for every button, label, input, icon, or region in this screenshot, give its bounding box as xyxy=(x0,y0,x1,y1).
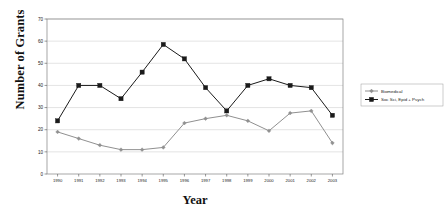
plot-frame xyxy=(47,19,343,174)
x-axis-ticks: 1990199119921993199419951996199719981999… xyxy=(53,174,338,183)
chart-figure: Number of Grants Year 010203040506070 19… xyxy=(0,0,447,214)
x-tick-label: 1997 xyxy=(201,178,211,183)
x-tick-label: 1990 xyxy=(53,178,63,183)
line-chart-plot: 010203040506070 199019911992199319941995… xyxy=(0,0,447,214)
series-soc-sci-epid-psych xyxy=(55,42,334,123)
legend-label: Soc Sci, Epid + Psych xyxy=(381,97,425,102)
plot-area-border xyxy=(47,19,343,174)
x-tick-label: 1999 xyxy=(243,178,253,183)
x-tick-label: 1995 xyxy=(159,178,169,183)
data-point xyxy=(55,119,59,123)
y-tick-label: 70 xyxy=(38,17,44,22)
data-point xyxy=(246,83,250,87)
y-tick-label: 30 xyxy=(38,105,44,110)
chart-legend: BiomedicalSoc Sci, Epid + Psych xyxy=(361,84,443,106)
legend-marker xyxy=(369,97,373,101)
data-point xyxy=(56,130,60,134)
data-point xyxy=(77,83,81,87)
data-point xyxy=(119,97,123,101)
data-point xyxy=(140,148,144,152)
data-point xyxy=(182,57,186,61)
x-tick-label: 1991 xyxy=(74,178,84,183)
data-point xyxy=(140,70,144,74)
data-point xyxy=(98,83,102,87)
data-point xyxy=(288,83,292,87)
y-tick-label: 50 xyxy=(38,61,44,66)
x-tick-label: 1992 xyxy=(95,178,105,183)
y-axis-title: Number of Grants xyxy=(13,0,28,135)
data-point xyxy=(119,148,123,152)
series-line xyxy=(58,44,333,120)
y-tick-label: 10 xyxy=(38,150,44,155)
data-point xyxy=(204,117,208,121)
data-point xyxy=(309,86,313,90)
x-tick-label: 2000 xyxy=(264,178,274,183)
data-point xyxy=(98,143,102,147)
series-line xyxy=(58,111,333,150)
data-point xyxy=(225,113,229,117)
y-tick-label: 60 xyxy=(38,39,44,44)
x-tick-label: 2003 xyxy=(328,178,338,183)
x-tick-label: 1994 xyxy=(137,178,147,183)
data-point xyxy=(330,113,334,117)
y-tick-label: 0 xyxy=(40,172,43,177)
data-point xyxy=(225,109,229,113)
x-tick-label: 2002 xyxy=(307,178,317,183)
x-axis-title: Year xyxy=(47,193,343,208)
data-point xyxy=(77,137,81,141)
data-point xyxy=(246,119,250,123)
legend-label: Biomedical xyxy=(381,89,402,94)
y-tick-label: 40 xyxy=(38,83,44,88)
x-tick-label: 2001 xyxy=(285,178,295,183)
legend-box xyxy=(361,84,443,106)
y-axis-ticks: 010203040506070 xyxy=(38,17,47,177)
x-tick-label: 1996 xyxy=(180,178,190,183)
data-point xyxy=(203,86,207,90)
x-tick-label: 1998 xyxy=(222,178,232,183)
data-point xyxy=(267,77,271,81)
data-series-layer xyxy=(55,42,334,151)
series-biomedical xyxy=(56,109,335,152)
y-tick-label: 20 xyxy=(38,127,44,132)
x-tick-label: 1993 xyxy=(116,178,126,183)
data-point xyxy=(161,42,165,46)
